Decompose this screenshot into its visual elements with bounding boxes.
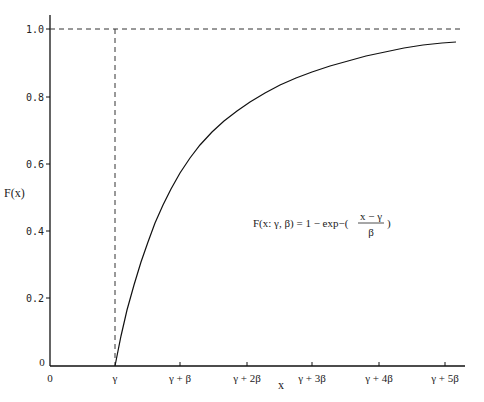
formula-text: F(x: γ, β) = 1 − exp−( <box>253 217 349 230</box>
x-ticks: 0 γ γ + β γ + 2β γ + 3β γ + 4β γ + 5β <box>47 362 459 384</box>
formula-annotation: F(x: γ, β) = 1 − exp−( x − γ β ) <box>253 210 391 238</box>
x-tick-label: γ + 4β <box>364 372 393 384</box>
y-tick-label: 0 <box>39 356 45 368</box>
y-axis-label: F(x) <box>4 186 25 200</box>
y-tick-label: 0.6 <box>26 159 44 170</box>
x-tick-label: γ <box>112 372 118 384</box>
x-tick-label: γ + 5β <box>430 372 459 384</box>
y-tick-label: 0.2 <box>26 293 44 304</box>
y-tick-label: 1.0 <box>26 24 44 35</box>
x-tick-label: γ + 2β <box>232 372 261 384</box>
formula-numerator: x − γ <box>360 210 382 222</box>
y-tick-label: 0.8 <box>26 92 44 103</box>
y-tick-label: 0.4 <box>26 226 44 237</box>
x-axis-label: x <box>278 378 284 392</box>
x-tick-label: γ + 3β <box>297 372 326 384</box>
x-tick-label: γ + β <box>168 372 192 384</box>
x-tick-label: 0 <box>47 372 53 384</box>
cdf-curve <box>115 42 456 366</box>
formula-suffix: ) <box>387 217 391 230</box>
cdf-chart: 1.0 0.8 0.6 0.4 0.2 0 0 γ γ + β γ + 2β γ… <box>0 0 484 402</box>
y-ticks: 1.0 0.8 0.6 0.4 0.2 0 <box>26 24 50 368</box>
formula-denominator: β <box>368 226 374 238</box>
